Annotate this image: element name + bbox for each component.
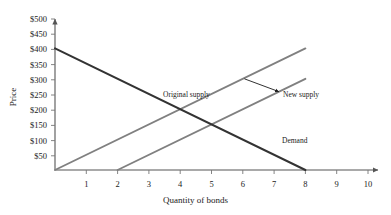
x-tick-label-3: 3 <box>147 180 151 189</box>
x-tick-label-6: 6 <box>241 180 245 189</box>
y-tick-label-200: $200 <box>0 106 47 115</box>
y-axis-title: Price <box>9 88 18 107</box>
x-tick-label-8: 8 <box>303 180 307 189</box>
annotation-demand: Demand <box>282 137 307 145</box>
y-tick-label-450: $450 <box>0 30 47 39</box>
x-tick-label-1: 1 <box>84 180 88 189</box>
x-tick-label-4: 4 <box>178 180 182 189</box>
annotation-original-supply: Original supply <box>163 91 210 99</box>
annotation-new-supply: New supply <box>283 91 319 99</box>
y-tick-label-300: $300 <box>0 76 47 85</box>
chart-plot-area <box>0 0 391 215</box>
bond-market-supply-demand-chart: $50 $100 $150 $200 $250 $300 $350 $400 $… <box>0 0 391 215</box>
supply-shift-arrow <box>244 79 278 92</box>
x-tick-label-7: 7 <box>272 180 276 189</box>
y-tick-label-150: $150 <box>0 121 47 130</box>
y-tick-label-500: $500 <box>0 15 47 24</box>
x-axis-title: Quantity of bonds <box>163 196 228 205</box>
x-axis-ticks <box>86 170 368 174</box>
x-tick-label-2: 2 <box>115 180 119 189</box>
y-tick-label-50: $50 <box>0 152 47 161</box>
y-tick-label-350: $350 <box>0 60 47 69</box>
y-tick-label-100: $100 <box>0 136 47 145</box>
y-tick-label-400: $400 <box>0 45 47 54</box>
y-axis-ticks <box>51 19 55 156</box>
x-tick-label-5: 5 <box>209 180 213 189</box>
x-tick-label-10: 10 <box>364 180 373 189</box>
x-tick-label-9: 9 <box>335 180 339 189</box>
